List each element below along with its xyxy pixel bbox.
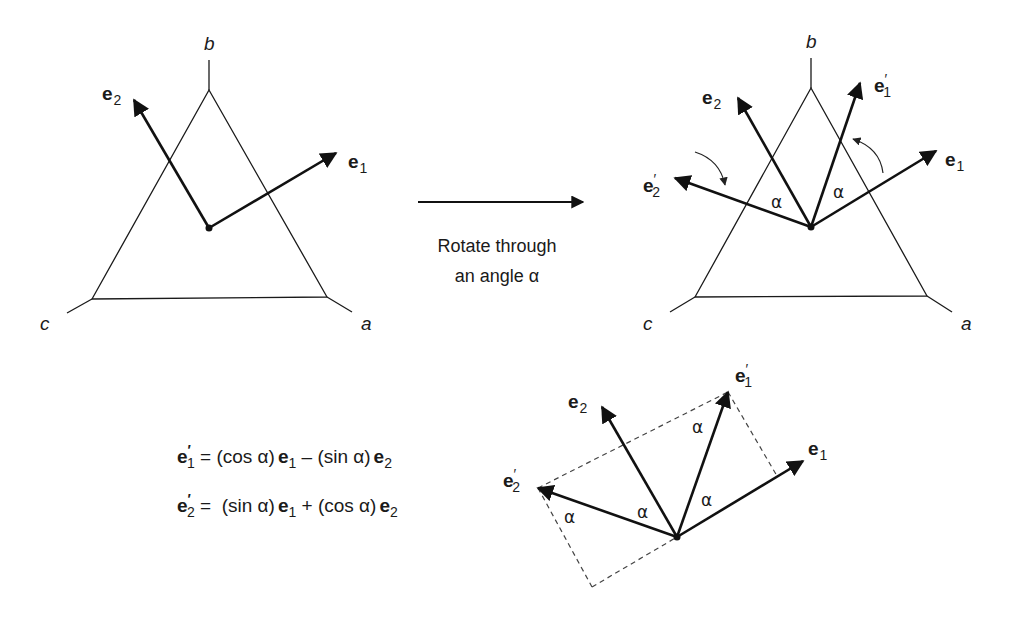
triangle	[695, 88, 927, 297]
a-axis-tick	[927, 296, 952, 312]
bottom-decomposition-diagram: α α α α e2 e′1 e1 e′2	[503, 361, 828, 587]
label-e1: e1	[348, 151, 368, 176]
vector-e2-arrow	[134, 100, 209, 228]
label-e2: e2	[102, 83, 122, 108]
label-e2: e2	[702, 87, 722, 112]
rotate-transition: Rotate through an angle α	[418, 202, 583, 286]
vertex-label-b: b	[806, 31, 817, 52]
angle-label: α	[701, 490, 712, 510]
rotation-arrow-left	[695, 152, 725, 185]
equation-e1-prime: e′1 = (cos α)e1 – (sin α)e2	[177, 442, 392, 471]
vertex-label-c: c	[40, 313, 50, 334]
a-axis-tick	[327, 297, 352, 312]
angle-label: α	[564, 507, 575, 527]
label-e1: e1	[945, 149, 965, 174]
c-axis-tick	[67, 299, 92, 313]
angle-label: α	[637, 502, 648, 522]
rotation-arrow-right	[853, 139, 883, 173]
vertex-label-a: a	[961, 313, 972, 334]
vector-e1-arrow	[677, 461, 803, 537]
label-e2-prime: e′2	[643, 171, 660, 200]
label-e2-prime: e′2	[503, 466, 520, 495]
label-e1: e1	[808, 438, 828, 463]
rotation-equations: e′1 = (cos α)e1 – (sin α)e2 e′2 = (sin α…	[177, 442, 398, 520]
vertex-label-c: c	[643, 313, 653, 334]
vector-e1-arrow	[811, 151, 936, 227]
triangle	[92, 90, 327, 299]
angle-label-left: α	[771, 192, 782, 212]
vector-e1-prime-arrow	[811, 83, 860, 227]
angle-label-right: α	[833, 182, 844, 202]
label-e1-prime: e′1	[874, 71, 891, 100]
c-axis-tick	[670, 297, 695, 312]
left-triangle-diagram: b c a e1 e2	[40, 33, 372, 334]
dashed-bottom-edge	[592, 537, 677, 587]
caption-line-2: an angle α	[455, 266, 539, 286]
vertex-label-a: a	[361, 313, 372, 334]
vector-e1-arrow	[209, 153, 336, 228]
equation-e2-prime: e′2 = (sin α)e1 + (cos α)e2	[177, 491, 398, 520]
dashed-right-edge	[728, 392, 777, 476]
rotation-diagram: b c a e1 e2 Rotate through an angle α b …	[0, 0, 1014, 620]
label-e2: e2	[568, 391, 588, 416]
vertex-label-b: b	[204, 33, 215, 54]
label-e1-prime: e′1	[735, 361, 752, 390]
angle-label: α	[692, 417, 703, 437]
vector-e2-prime-arrow	[675, 178, 811, 227]
caption-line-1: Rotate through	[437, 236, 556, 256]
right-triangle-diagram: b c a α α e2 e′1 e1 e′2	[643, 31, 972, 334]
vector-e2-prime-arrow	[538, 488, 677, 537]
